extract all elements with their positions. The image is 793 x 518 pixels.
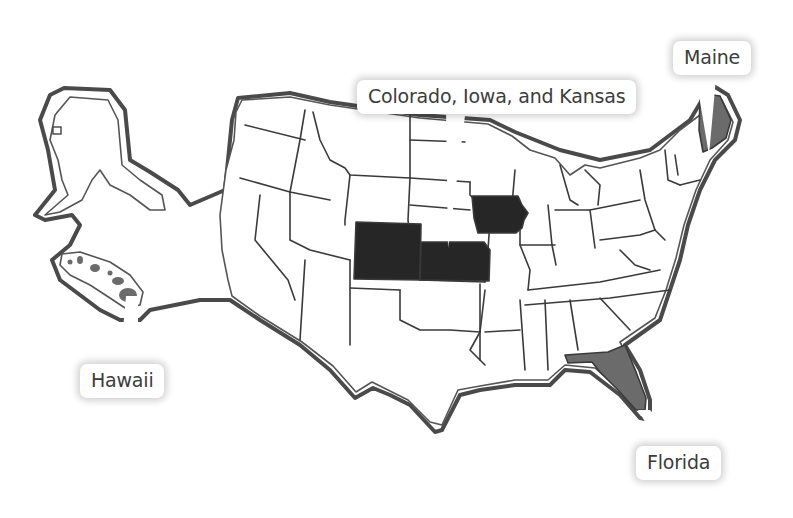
callout-hawaii: Hawaii — [80, 364, 164, 398]
callout-label: Hawaii — [91, 369, 153, 391]
callout-florida: Florida — [636, 446, 721, 480]
callout-maine: Maine — [673, 41, 751, 75]
alaska — [45, 97, 165, 215]
state-florida — [565, 345, 646, 410]
state-iowa — [472, 196, 528, 233]
callout-label: Colorado, Iowa, and Kansas — [368, 85, 625, 107]
callout-label: Florida — [647, 451, 710, 473]
callout-label: Maine — [684, 46, 740, 68]
pointer-florida — [638, 410, 678, 440]
state-kansas — [420, 242, 490, 281]
callout-colorado-iowa-kansas: Colorado, Iowa, and Kansas — [357, 80, 636, 114]
us-map — [0, 0, 793, 518]
state-colorado — [354, 222, 421, 280]
